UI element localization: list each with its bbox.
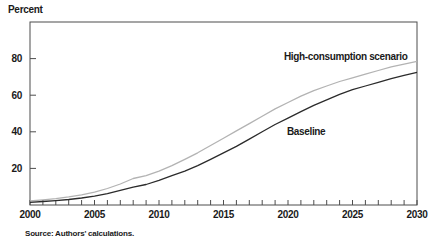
figure: Percent 20406080200020052010201520202025…: [0, 0, 430, 248]
source-note: Source: Authors' calculations.: [25, 229, 134, 238]
y-tick-label: 20: [11, 163, 22, 174]
x-tick-label: 2005: [84, 209, 106, 220]
x-tick-label: 2015: [213, 209, 235, 220]
y-tick-label: 60: [11, 90, 22, 101]
line-chart: 204060802000200520102015202020252030: [0, 0, 430, 248]
y-tick-label: 40: [11, 126, 22, 137]
series-label-high-consumption: High-consumption scenario: [284, 51, 407, 62]
x-tick-label: 2030: [406, 209, 428, 220]
plot-frame: [30, 22, 417, 205]
series-line-high-consumption: [30, 61, 417, 201]
x-tick-label: 2000: [19, 209, 41, 220]
x-tick-label: 2025: [342, 209, 364, 220]
y-tick-label: 80: [11, 53, 22, 64]
series-label-baseline: Baseline: [287, 126, 325, 137]
x-tick-label: 2010: [148, 209, 170, 220]
x-tick-label: 2020: [277, 209, 299, 220]
series-line-baseline: [30, 72, 417, 202]
